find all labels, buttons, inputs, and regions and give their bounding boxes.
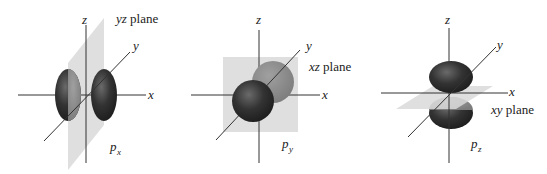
orbital-subscript: y [288, 144, 293, 154]
z-axis-label: z [255, 12, 261, 27]
orbital-subscript: x [116, 147, 121, 157]
y-axis-label: y [131, 38, 139, 53]
plane-label: xz plane [308, 59, 351, 74]
x-axis-label: x [147, 87, 154, 102]
z-axis-label: z [444, 12, 450, 27]
x-axis-label: x [508, 84, 515, 99]
plane-label: xy plane [490, 102, 534, 117]
plane-label: yz plane [114, 11, 158, 26]
x-axis-label: x [321, 87, 328, 102]
orbital-label: p [281, 136, 289, 151]
px-lobe-positive [91, 69, 117, 121]
pz-orbital-figure: z y x xy plane p z [381, 12, 534, 163]
orbital-subscript: z [477, 144, 482, 154]
y-axis-label: y [304, 38, 312, 53]
py-lobe-front [232, 80, 274, 122]
px-orbital-figure: z y x yz plane p x [18, 11, 158, 170]
orbital-label: p [470, 136, 478, 151]
py-orbital-figure: z y x xz plane p y [191, 12, 351, 163]
z-axis-label: z [81, 12, 87, 27]
y-axis-label: y [495, 37, 503, 52]
p-orbitals-diagram: z y x yz plane p x z y x xz plane p y z … [0, 0, 547, 174]
orbital-label: p [109, 139, 117, 154]
